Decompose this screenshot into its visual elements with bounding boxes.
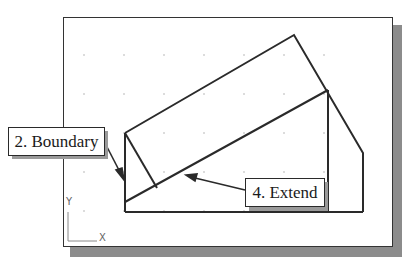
grid-dot <box>83 210 85 212</box>
grid-dot <box>83 54 85 56</box>
ucs-icon <box>68 212 97 241</box>
boundary-arrowhead-icon <box>116 168 124 180</box>
grid-dot <box>283 93 285 95</box>
ucs-x-label: X <box>99 232 106 243</box>
boundary-callout: 2. Boundary <box>8 127 105 156</box>
extend-arrowhead-icon <box>186 174 197 181</box>
grid-dot <box>163 171 165 173</box>
grid-dot <box>203 93 205 95</box>
grid-dot <box>323 54 325 56</box>
leaders <box>106 145 245 190</box>
grid-dot <box>163 93 165 95</box>
grid-dot <box>203 171 205 173</box>
grid-dot <box>203 54 205 56</box>
grid-dot <box>243 171 245 173</box>
grid-dot <box>323 171 325 173</box>
grid-dot <box>163 54 165 56</box>
grid-dot <box>283 54 285 56</box>
grid-dot <box>323 132 325 134</box>
grid-dot <box>243 132 245 134</box>
short-slant-line[interactable] <box>125 133 157 188</box>
grid-dot <box>243 93 245 95</box>
grid-dot <box>283 171 285 173</box>
extend-callout: 4. Extend <box>245 178 325 207</box>
grid-dot <box>123 54 125 56</box>
grid-dot <box>203 132 205 134</box>
extend-leader-line <box>195 178 245 190</box>
grid-dot <box>283 132 285 134</box>
grid-dot <box>83 171 85 173</box>
ucs-y-label: Y <box>66 196 72 207</box>
extend-callout-label: 4. Extend <box>252 183 317 203</box>
grid-dot <box>243 54 245 56</box>
grid-dot <box>123 93 125 95</box>
grid-dot <box>163 132 165 134</box>
grid-dot <box>83 93 85 95</box>
boundary-callout-label: 2. Boundary <box>14 132 98 152</box>
